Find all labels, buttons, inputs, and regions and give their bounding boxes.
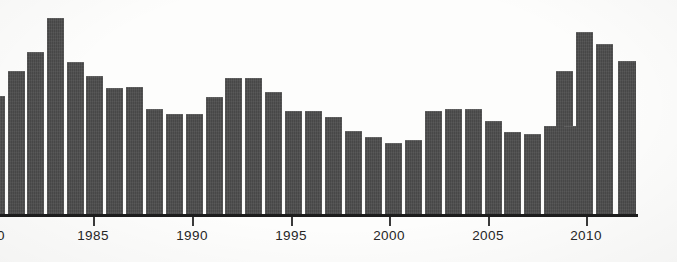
x-axis-tick <box>389 217 391 226</box>
bar <box>618 61 636 216</box>
bar <box>186 114 203 216</box>
x-axis-tick-label: 2000 <box>373 228 405 244</box>
bar <box>425 111 442 216</box>
bar <box>225 78 242 216</box>
bar <box>265 92 282 216</box>
x-axis-line <box>0 214 638 217</box>
bar <box>126 87 143 216</box>
x-axis-tick-label: 0 <box>0 228 5 244</box>
bar <box>67 62 84 216</box>
bar <box>8 71 25 216</box>
bar-chart: 0198519901995200020052010 <box>0 0 677 262</box>
bar <box>576 32 593 216</box>
bar <box>245 78 262 216</box>
bar <box>86 76 103 216</box>
plot-area <box>0 0 677 216</box>
bar <box>305 111 322 216</box>
bar <box>345 131 362 216</box>
x-axis-tick-label: 2005 <box>472 228 504 244</box>
bar <box>106 88 123 216</box>
bar <box>365 137 382 216</box>
x-axis-tick <box>93 217 95 226</box>
bar <box>0 96 5 216</box>
x-axis-tick <box>192 217 194 226</box>
x-axis-tick <box>586 217 588 226</box>
x-axis-tick-label: 1995 <box>275 228 307 244</box>
x-axis-tick-label: 1990 <box>176 228 208 244</box>
bar <box>285 111 302 216</box>
bar <box>405 140 422 216</box>
x-axis-tick <box>291 217 293 226</box>
bar <box>596 44 613 216</box>
bar <box>325 117 342 216</box>
bar <box>504 132 521 216</box>
x-axis-tick <box>488 217 490 226</box>
bar <box>206 97 223 216</box>
x-axis-tick-label: 1985 <box>77 228 109 244</box>
bar <box>445 109 462 216</box>
bar <box>27 52 44 216</box>
bar <box>385 143 402 216</box>
bar <box>485 121 502 216</box>
bar <box>166 114 183 216</box>
bar <box>146 109 163 216</box>
bar <box>47 18 64 216</box>
bar <box>465 109 482 216</box>
x-axis-tick-label: 2010 <box>570 228 602 244</box>
bar <box>524 134 541 216</box>
